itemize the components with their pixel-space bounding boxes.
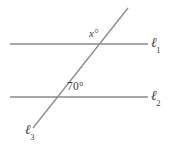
line-label-l3: ℓ3 (25, 123, 35, 139)
line-l3-transversal (33, 8, 128, 128)
line-label-l1: ℓ1 (151, 36, 161, 52)
subscript-l1: 1 (156, 45, 160, 55)
subscript-l3: 3 (30, 132, 34, 142)
subscript-l2: 2 (156, 98, 160, 108)
geometry-diagram: x° 70° ℓ1 ℓ2 ℓ3 (0, 0, 178, 150)
line-label-l2: ℓ2 (151, 89, 161, 105)
angle-label-70: 70° (67, 81, 84, 93)
angle-label-x: x° (89, 28, 99, 39)
